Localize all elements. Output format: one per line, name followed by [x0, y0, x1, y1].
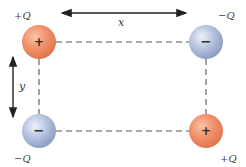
charge-label: +Q — [220, 153, 237, 164]
charge-diagram: x y + +Q − −Q − −Q + +Q — [0, 0, 246, 167]
plus-sign-icon: + — [34, 35, 44, 49]
charge-label: −Q — [218, 10, 235, 21]
charge-top-right-negative: − −Q — [189, 10, 235, 59]
minus-sign-icon: − — [201, 34, 212, 49]
y-dimension-arrow: y — [13, 57, 26, 117]
charge-label: −Q — [14, 153, 31, 164]
y-label: y — [18, 80, 26, 93]
x-label: x — [118, 16, 125, 29]
charge-bottom-left-negative: − −Q — [14, 114, 56, 164]
minus-sign-icon: − — [34, 123, 45, 138]
charge-top-left-positive: + +Q — [14, 10, 56, 59]
charge-bottom-right-positive: + +Q — [189, 114, 237, 164]
plus-sign-icon: + — [201, 124, 211, 138]
charge-label: +Q — [14, 10, 31, 21]
dashed-rectangle — [39, 42, 206, 131]
x-dimension-arrow: x — [62, 13, 186, 29]
